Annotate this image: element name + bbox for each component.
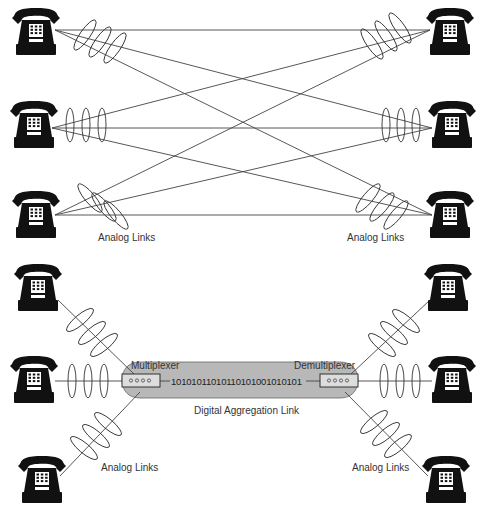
- telephone-icon: [422, 456, 470, 503]
- analog-wave-top-left-3: [75, 181, 132, 232]
- telephone-icon: [14, 264, 62, 311]
- analog-links-label-bottom-right: Analog Links: [352, 462, 409, 473]
- network-diagram: Analog Links Analog Links: [0, 0, 488, 512]
- telephone-icon: [424, 264, 472, 311]
- top-mesh-links: [52, 30, 432, 215]
- digital-aggregation-link-label: Digital Aggregation Link: [194, 405, 300, 416]
- telephone-icon: [12, 191, 60, 238]
- analog-wave-top-right-3: [353, 181, 412, 232]
- analog-links-label-top-right: Analog Links: [347, 232, 404, 243]
- telephone-icon: [426, 8, 474, 55]
- telephone-icon: [426, 191, 474, 238]
- demultiplexer-label: Demultiplexer: [294, 360, 356, 371]
- analog-links-label-bottom-left: Analog Links: [101, 462, 158, 473]
- telephone-icon: [18, 456, 66, 503]
- telephone-icon: [10, 101, 58, 148]
- telephone-icon: [428, 101, 476, 148]
- multiplexer-device-icon: [122, 374, 160, 387]
- analog-wave-top-right-2: [382, 108, 420, 142]
- multiplexer-label: Multiplexer: [131, 360, 180, 371]
- demultiplexer-device-icon: [320, 374, 358, 387]
- analog-wave-top-left-2: [66, 108, 106, 142]
- telephone-icon: [10, 356, 58, 403]
- telephone-icon: [428, 356, 476, 403]
- bit-stream-label: 10101011010110101001010101: [171, 376, 302, 387]
- telephone-icon: [12, 8, 60, 55]
- analog-links-label-top-left: Analog Links: [98, 232, 155, 243]
